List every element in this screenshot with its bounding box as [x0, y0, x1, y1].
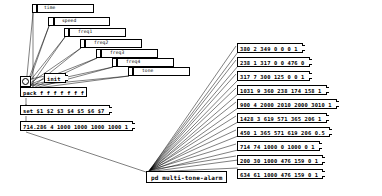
- hslider-time-label: time: [44, 5, 55, 10]
- default-values-message-box[interactable]: 714.286 4 1000 1000 1000 1000 1: [20, 121, 133, 131]
- subpatch-object-multi-tone-alarm[interactable]: pd multi-tone-alarm: [146, 171, 227, 183]
- hslider-freq4[interactable]: [112, 58, 174, 67]
- hslider-freq3-label: freq3: [110, 50, 124, 55]
- preset-message-box[interactable]: 634 61 1000 476 159 0 1: [237, 169, 323, 179]
- pack-object[interactable]: pack f f f f f f f: [20, 87, 87, 97]
- hslider-speed-label: speed: [62, 18, 76, 23]
- hslider-speed-knob[interactable]: [53, 18, 55, 25]
- preset-message-box[interactable]: 317 7 300 125 0 0 1: [237, 71, 310, 81]
- hslider-tone-knob[interactable]: [132, 68, 134, 75]
- preset-message-box[interactable]: 900 4 2000 2010 2000 3010 1: [237, 99, 337, 109]
- hslider-freq4-knob[interactable]: [116, 59, 118, 66]
- preset-message-box[interactable]: 714 74 1000 0 1000 0 1: [237, 141, 320, 151]
- hslider-time-knob[interactable]: [36, 5, 38, 12]
- hslider-freq2-knob[interactable]: [84, 40, 86, 47]
- preset-message-box[interactable]: 1428 3 619 571 365 206 1: [237, 113, 327, 123]
- init-message-box[interactable]: init: [44, 73, 66, 83]
- preset-message-box[interactable]: 1031 9 360 238 174 158 1: [237, 85, 327, 95]
- preset-message-box[interactable]: 238 1 317 0 0 476 0: [237, 57, 310, 67]
- set-message-box[interactable]: set $1 $2 $3 $4 $5 $6 $7: [20, 105, 110, 115]
- hslider-freq2-label: freq2: [94, 40, 108, 45]
- preset-message-box[interactable]: 200 30 1000 476 159 0 1: [237, 155, 323, 165]
- bang-circle-icon: [22, 78, 29, 85]
- hslider-freq2[interactable]: [80, 39, 142, 48]
- hslider-tone-label: tone: [142, 68, 153, 73]
- hslider-freq3[interactable]: [96, 49, 158, 58]
- hslider-freq1-label: freq1: [78, 29, 92, 34]
- hslider-freq4-label: freq4: [126, 59, 140, 64]
- bang-init[interactable]: [20, 76, 31, 87]
- patch-connection-wires: [0, 0, 382, 196]
- hslider-freq1-knob[interactable]: [68, 29, 70, 36]
- preset-message-box[interactable]: 380 2 349 0 0 0 1: [237, 43, 303, 53]
- preset-message-box[interactable]: 450 1 365 571 619 206 0.5: [237, 127, 330, 137]
- hslider-freq1[interactable]: [64, 28, 126, 37]
- hslider-tone[interactable]: [128, 67, 190, 76]
- hslider-speed[interactable]: [48, 17, 110, 26]
- hslider-time[interactable]: [32, 4, 94, 13]
- pd-patch-canvas: time speed freq1 freq2 freq3 freq4 tone …: [0, 0, 382, 196]
- hslider-freq3-knob[interactable]: [100, 50, 102, 57]
